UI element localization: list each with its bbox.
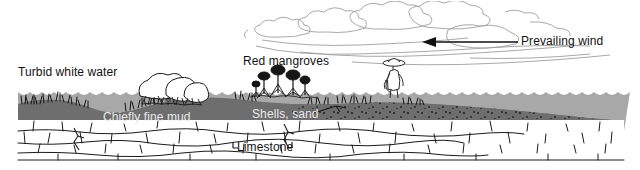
label-chiefly-fine-mud: Chiefly fine mud (103, 111, 191, 123)
label-limestone: Limestone (237, 141, 293, 153)
label-shells-sand: Shells, sand (252, 108, 319, 120)
label-red-mangroves: Red mangroves (243, 55, 329, 67)
cross-section-figure: Turbid white water Red mangroves Prevail… (0, 0, 640, 170)
cross-section-graphic (0, 0, 640, 170)
label-turbid-white-water: Turbid white water (18, 66, 117, 78)
label-prevailing-wind: Prevailing wind (521, 35, 603, 47)
